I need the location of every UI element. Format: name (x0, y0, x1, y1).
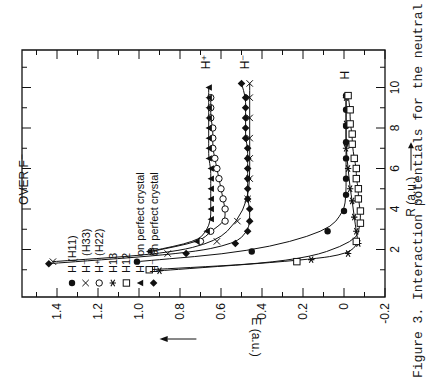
r-tick-label: 2 (388, 246, 402, 253)
marker-open-square (349, 131, 355, 137)
legend-label: H13 (107, 253, 119, 273)
marker-filled-circle (249, 248, 255, 254)
marker-asterisk (308, 256, 314, 262)
marker-filled-diamond (242, 104, 250, 112)
e-tick-label: 0.6 (214, 303, 228, 320)
legend-label: H⁺ on perfect crystal (134, 172, 146, 273)
marker-filled-diamond (182, 250, 190, 258)
marker-filled-diamond (246, 205, 254, 213)
r-tick-label: 8 (388, 124, 402, 131)
marker-filled-diamond (232, 240, 240, 248)
marker-filled-circle (343, 155, 349, 161)
e-tick-label: 1.4 (50, 303, 64, 320)
marker-x (82, 280, 88, 286)
marker-filled-diamond (150, 279, 158, 287)
marker-filled-diamond (242, 134, 250, 142)
r-tick-label: 4 (388, 205, 402, 212)
legend-label: H⁺ (H22) (93, 228, 105, 273)
curve-label: H⁺ (199, 55, 213, 70)
marker-filled-diamond (244, 165, 252, 173)
marker-open-square (355, 196, 361, 202)
marker-open-square (351, 155, 357, 161)
marker-filled-diamond (244, 144, 252, 152)
marker-filled-circle (343, 175, 349, 181)
marker-filled-diamond (244, 155, 252, 163)
marker-filled-circle (341, 208, 347, 214)
chart-plot: -0.200.20.40.60.81.01.21.4246810R (a.u.)… (0, 0, 448, 381)
marker-open-square (349, 141, 355, 147)
marker-open-circle (96, 280, 102, 286)
marker-filled-diamond (45, 260, 53, 268)
marker-filled-diamond (242, 124, 250, 132)
marker-open-square (347, 107, 353, 113)
marker-filled-circle (69, 280, 75, 286)
e-tick-label: 0.2 (296, 303, 310, 320)
marker-open-square (345, 92, 351, 98)
marker-open-square (353, 175, 359, 181)
marker-filled-diamond (246, 217, 254, 225)
marker-open-square (357, 208, 363, 214)
marker-filled-diamond (244, 175, 252, 183)
curve-label: H⁻ (238, 55, 252, 70)
legend-label: H⁻ (H33) (80, 228, 92, 273)
marker-open-circle (222, 218, 228, 224)
marker-open-square (347, 121, 353, 127)
legend-label: H⁻ on perfect crystal (148, 172, 160, 273)
marker-open-square (294, 258, 300, 264)
r-tick-label: 10 (388, 81, 402, 95)
marker-filled-diamond (238, 80, 246, 88)
figure: -0.200.20.40.60.81.01.21.4246810R (a.u.)… (0, 0, 448, 381)
marker-open-circle (218, 186, 224, 192)
figure-caption: Figure 3. Interaction potentials for the… (411, 4, 426, 378)
e-tick-label: -0.2 (378, 303, 392, 324)
e-tick-label: 1.0 (132, 303, 146, 320)
legend-label: H12 (120, 253, 132, 273)
marker-open-circle (222, 206, 228, 212)
marker-x (165, 250, 171, 256)
curve-line (160, 98, 358, 271)
e-tick-label: 1.2 (91, 303, 105, 320)
r-tick-label: 6 (388, 165, 402, 172)
marker-open-square (123, 280, 129, 286)
marker-open-square (357, 220, 363, 226)
marker-asterisk (110, 280, 116, 286)
e-axis-arrowhead (160, 336, 168, 342)
marker-open-circle (212, 155, 218, 161)
e-axis-label: E (a.u.) (249, 317, 263, 356)
curve-label: H (338, 71, 352, 80)
chart-title: OVER F⁻ (17, 154, 31, 205)
marker-filled-circle (343, 192, 349, 198)
marker-filled-circle (324, 228, 330, 234)
marker-open-square (355, 186, 361, 192)
legend-label: H (H11) (66, 235, 78, 273)
marker-open-circle (220, 196, 226, 202)
marker-open-square (353, 238, 359, 244)
marker-open-circle (216, 175, 222, 181)
curve-line (151, 98, 225, 252)
e-tick-label: 0.8 (173, 303, 187, 320)
marker-filled-triangle (137, 280, 143, 286)
marker-open-square (353, 165, 359, 171)
e-tick-label: 0 (337, 303, 351, 310)
marker-filled-diamond (242, 94, 250, 102)
marker-open-circle (214, 165, 220, 171)
curve-line (149, 96, 360, 270)
marker-filled-diamond (244, 185, 252, 193)
marker-filled-diamond (242, 114, 250, 122)
